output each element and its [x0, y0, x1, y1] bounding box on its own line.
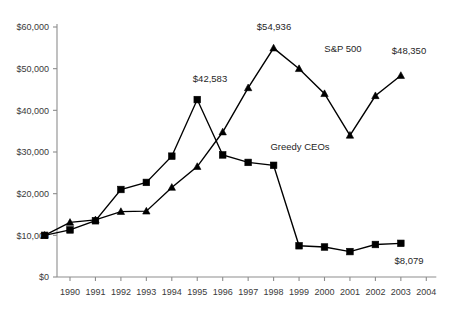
- data-point-marker: [67, 227, 74, 234]
- data-point-marker: [118, 186, 125, 193]
- series-line: [45, 100, 401, 252]
- chart-annotations: $42,583$54,936$48,350$8,079S&P 500Greedy…: [193, 21, 426, 266]
- data-point-value-label: $42,583: [193, 73, 227, 84]
- chart-container: $0$10,000$20,000$30,000$40,000$50,000$60…: [0, 0, 458, 313]
- series-inline-label: S&P 500: [324, 43, 361, 54]
- data-point-marker: [397, 72, 404, 79]
- data-point-value-label: $54,936: [257, 21, 291, 32]
- data-point-marker: [296, 242, 303, 249]
- data-point-marker: [270, 44, 277, 51]
- y-axis-tick-label: $30,000: [16, 147, 49, 157]
- data-point-marker: [347, 248, 354, 255]
- data-point-marker: [194, 96, 201, 103]
- data-point-marker: [245, 159, 252, 166]
- series-greedy-ceos: [41, 96, 404, 255]
- x-axis-tick-label: 2001: [340, 287, 360, 297]
- data-point-value-label: $48,350: [392, 45, 426, 56]
- data-point-marker: [219, 152, 226, 159]
- x-axis-tick-label: 2003: [391, 287, 411, 297]
- x-axis-tick-label: 2000: [314, 287, 334, 297]
- data-point-marker: [219, 128, 226, 135]
- data-point-marker: [270, 162, 277, 169]
- x-axis-tick-label: 1991: [85, 287, 105, 297]
- x-axis-tick-label: 1996: [213, 287, 233, 297]
- x-axis-tick-label: 1995: [187, 287, 207, 297]
- y-axis-tick-label: $20,000: [16, 189, 49, 199]
- x-axis-tick-label: 2004: [416, 287, 436, 297]
- x-axis-tick-label: 1998: [264, 287, 284, 297]
- x-axis-tick-label: 2002: [365, 287, 385, 297]
- data-point-marker: [372, 241, 379, 248]
- line-chart: $0$10,000$20,000$30,000$40,000$50,000$60…: [0, 0, 458, 313]
- series-inline-label: Greedy CEOs: [270, 141, 329, 152]
- y-axis-tick-label: $50,000: [16, 64, 49, 74]
- data-point-value-label: $8,079: [394, 255, 423, 266]
- y-axis-tick-label: $0: [39, 272, 49, 282]
- x-axis-tick-labels: 1990199119921993199419951996199719981999…: [60, 287, 436, 297]
- data-point-marker: [143, 179, 150, 186]
- x-axis-tick-label: 1990: [60, 287, 80, 297]
- y-axis-tick-labels: $0$10,000$20,000$30,000$40,000$50,000$60…: [16, 22, 49, 282]
- y-axis-tick-label: $40,000: [16, 106, 49, 116]
- data-point-marker: [321, 244, 328, 251]
- x-axis-tick-label: 1997: [238, 287, 258, 297]
- x-axis-tick-label: 1993: [136, 287, 156, 297]
- x-axis-tick-label: 1992: [111, 287, 131, 297]
- x-axis-tick-label: 1994: [162, 287, 182, 297]
- x-axis-tick-label: 1999: [289, 287, 309, 297]
- data-point-marker: [398, 240, 405, 247]
- y-axis-tick-label: $60,000: [16, 22, 49, 32]
- data-point-marker: [169, 153, 176, 160]
